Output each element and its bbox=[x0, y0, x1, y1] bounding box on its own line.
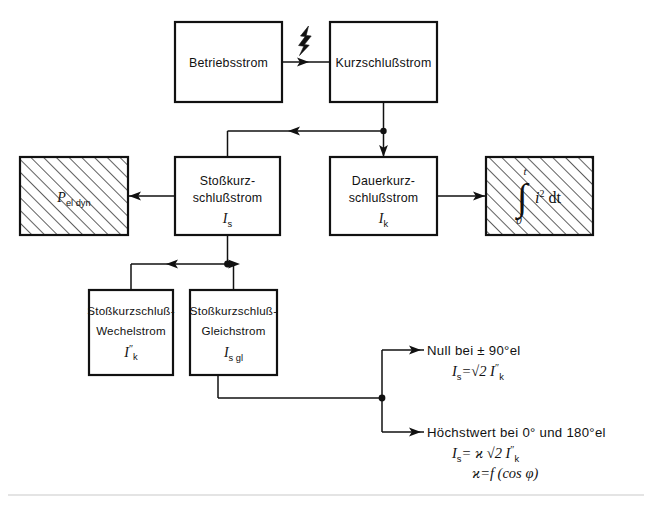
box-kurzschlussstrom-label: Kurzschlußstrom bbox=[336, 56, 432, 70]
annotation-max-case: Höchstwert bei 0° und 180°el Is= ϰ √2 I″… bbox=[427, 425, 606, 482]
box-stosskurzschlussstrom[interactable]: Stoßkurz- schlußstrom Is bbox=[175, 157, 280, 235]
box-gleichstrom-line2: Gleichstrom bbox=[201, 324, 265, 337]
annotation-null-heading: Null bei ± 90°el bbox=[427, 343, 521, 358]
box-dauerkurzschlussstrom-line1: Dauerkurz- bbox=[352, 174, 415, 188]
annotation-null-case: Null bei ± 90°el Is=√2 I″k bbox=[427, 343, 521, 382]
box-stosskurzschlussstrom-line2: schlußstrom bbox=[193, 191, 263, 205]
box-dauerkurzschlussstrom-line2: schlußstrom bbox=[349, 191, 419, 205]
box-dauerkurzschlussstrom[interactable]: Dauerkurz- schlußstrom Ik bbox=[330, 157, 437, 235]
box-stosskurzschluss-wechselstrom[interactable]: Stoßkurzschluß- Wechelstrom I″k bbox=[87, 290, 174, 375]
annotation-max-heading: Höchstwert bei 0° und 180°el bbox=[427, 425, 606, 440]
box-stosskurzschluss-gleichstrom[interactable]: Stoßkurzschluß- Gleichstrom Is gl bbox=[190, 290, 277, 375]
box-p-el-dyn[interactable]: Pel dyn bbox=[20, 157, 128, 235]
annotation-max-formula-line2: ϰ=f (cos φ) bbox=[472, 465, 538, 482]
box-wechselstrom-line1: Stoßkurzschluß- bbox=[87, 304, 174, 317]
box-integral[interactable]: t ∫ 0 i2 dt bbox=[486, 157, 593, 235]
box-betriebsstrom[interactable]: Betriebsstrom bbox=[175, 22, 282, 102]
annotation-max-formula: Is= ϰ √2 I″k bbox=[451, 444, 520, 464]
box-betriebsstrom-label: Betriebsstrom bbox=[189, 56, 268, 70]
box-p-el-dyn-subscript: el dyn bbox=[66, 198, 91, 208]
box-stosskurzschlussstrom-line1: Stoßkurz- bbox=[200, 174, 256, 188]
lightning-bolt-icon bbox=[299, 26, 312, 56]
diagram-svg: Betriebsstrom Kurzschlußstrom Pel dyn bbox=[0, 0, 652, 508]
annotation-null-formula: Is=√2 I″k bbox=[451, 362, 504, 382]
integral-lower-limit: 0 bbox=[516, 214, 522, 226]
integral-body: i2 dt bbox=[535, 188, 561, 206]
box-gleichstrom-line1: Stoßkurzschluß- bbox=[190, 304, 277, 317]
box-wechselstrom-line2: Wechelstrom bbox=[96, 324, 166, 337]
block-diagram-canvas: Betriebsstrom Kurzschlußstrom Pel dyn bbox=[0, 0, 652, 508]
box-kurzschlussstrom[interactable]: Kurzschlußstrom bbox=[330, 22, 437, 102]
